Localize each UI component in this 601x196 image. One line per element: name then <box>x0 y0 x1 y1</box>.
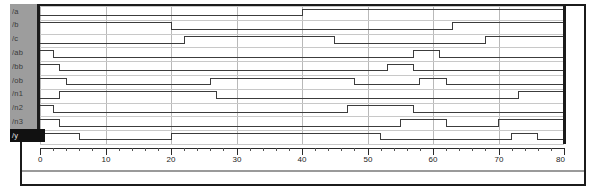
ruler-tick-major <box>433 148 434 155</box>
ruler-tick-minor <box>92 148 93 151</box>
ruler-tick-minor <box>210 148 211 151</box>
waveform-trace-y <box>40 133 564 140</box>
ruler-tick-minor <box>354 148 355 151</box>
ruler-tick-minor <box>250 148 251 151</box>
ruler-tick-minor <box>158 148 159 151</box>
ruler-tick-label: 60 <box>429 155 438 164</box>
signal-label-a[interactable]: /a <box>12 5 40 18</box>
signal-label-n1[interactable]: /n1 <box>12 87 40 100</box>
ruler-tick-minor <box>472 148 473 151</box>
ruler-tick-minor <box>119 148 120 151</box>
signal-label-panel[interactable]: /a/b/c/ab/bb/ob/n1/n2/n3/y <box>10 4 40 142</box>
ruler-separator <box>22 170 584 172</box>
ruler-tick-minor <box>407 148 408 151</box>
waveform-trace-b <box>40 23 564 30</box>
end-cursor-bar[interactable] <box>563 6 566 144</box>
ruler-tick-minor <box>551 148 552 151</box>
waveform-trace-bb <box>40 64 564 71</box>
ruler-tick-major <box>106 148 107 155</box>
signal-label-b[interactable]: /b <box>12 18 40 31</box>
ruler-tick-minor <box>132 148 133 151</box>
ruler-tick-minor <box>459 148 460 151</box>
ruler-tick-minor <box>420 148 421 151</box>
ruler-tick-minor <box>328 148 329 151</box>
signal-label-c[interactable]: /c <box>12 32 40 45</box>
ruler-tick-minor <box>263 148 264 151</box>
waveform-viewer: /a/b/c/ab/bb/ob/n1/n2/n3/y 0102030405060… <box>0 0 601 196</box>
ruler-tick-minor <box>512 148 513 151</box>
ruler-tick-minor <box>53 148 54 151</box>
ruler-tick-major <box>368 148 369 155</box>
signal-label-ab[interactable]: /ab <box>12 46 40 59</box>
waveform-trace-n2 <box>40 106 564 113</box>
waveform-plot-area[interactable] <box>40 6 564 144</box>
signal-label-bb[interactable]: /bb <box>12 60 40 73</box>
ruler-tick-minor <box>197 148 198 151</box>
waveform-trace-n1 <box>40 92 564 99</box>
ruler-tick-minor <box>394 148 395 151</box>
ruler-tick-major <box>564 148 565 155</box>
ruler-tick-minor <box>184 148 185 151</box>
time-ruler[interactable]: 01020304050607080 <box>40 148 564 170</box>
ruler-tick-major <box>237 148 238 155</box>
waveform-trace-n3 <box>40 119 564 126</box>
ruler-tick-minor <box>525 148 526 151</box>
ruler-tick-minor <box>276 148 277 151</box>
ruler-tick-major <box>40 148 41 155</box>
ruler-tick-major <box>499 148 500 155</box>
ruler-tick-label: 10 <box>102 155 111 164</box>
ruler-tick-minor <box>538 148 539 151</box>
ruler-tick-minor <box>341 148 342 151</box>
ruler-tick-minor <box>289 148 290 151</box>
waveform-trace-c <box>40 37 564 44</box>
ruler-tick-minor <box>79 148 80 151</box>
ruler-tick-label: 20 <box>167 155 176 164</box>
ruler-tick-minor <box>315 148 316 151</box>
waveform-traces <box>40 6 564 144</box>
ruler-tick-minor <box>145 148 146 151</box>
waveform-trace-ab <box>40 50 564 57</box>
ruler-tick-minor <box>66 148 67 151</box>
ruler-tick-minor <box>223 148 224 151</box>
ruler-tick-label: 50 <box>364 155 373 164</box>
ruler-tick-label: 80 <box>556 155 565 164</box>
signal-label-n2[interactable]: /n2 <box>12 101 40 114</box>
waveform-trace-ob <box>40 78 564 85</box>
ruler-tick-label: 40 <box>298 155 307 164</box>
ruler-tick-major <box>171 148 172 155</box>
ruler-tick-minor <box>446 148 447 151</box>
ruler-tick-minor <box>485 148 486 151</box>
waveform-trace-a <box>40 9 564 16</box>
ruler-tick-label: 0 <box>38 155 42 164</box>
ruler-tick-label: 70 <box>495 155 504 164</box>
grid-line-horizontal <box>40 144 564 145</box>
ruler-tick-label: 30 <box>233 155 242 164</box>
signal-label-ob[interactable]: /ob <box>12 74 40 87</box>
signal-label-y[interactable]: /y <box>10 129 45 142</box>
ruler-tick-minor <box>381 148 382 151</box>
signal-label-n3[interactable]: /n3 <box>12 115 40 128</box>
ruler-tick-major <box>302 148 303 155</box>
